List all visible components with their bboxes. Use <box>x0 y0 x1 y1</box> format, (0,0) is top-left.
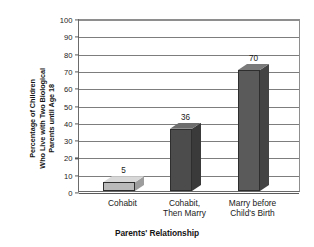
y-axis-title-line-2: Who Live with Two Biological <box>37 32 47 204</box>
y-tick-label-0: 0 <box>68 189 79 198</box>
x-category-label-1-line-0: Cohabit, <box>163 198 206 208</box>
y-tick-label-70: 70 <box>64 67 79 76</box>
y-tick-label-100: 100 <box>60 16 79 25</box>
y-tick-label-10: 10 <box>64 171 79 180</box>
bar-front-face-2 <box>238 70 260 191</box>
y-axis-title-line-3: Parents until Age 18 <box>47 32 57 204</box>
bar-0[interactable] <box>103 176 135 191</box>
data-label-1: 36 <box>181 113 190 122</box>
data-label-0: 5 <box>121 166 126 175</box>
bar-1[interactable] <box>170 123 192 191</box>
x-category-label-2-line-1: Child's Birth <box>229 208 276 218</box>
y-tick-label-80: 80 <box>64 50 79 59</box>
y-tick-label-40: 40 <box>64 119 79 128</box>
y-tick-label-20: 20 <box>64 154 79 163</box>
bar-side-face-1 <box>192 123 201 191</box>
x-category-label-0: Cohabit <box>108 198 137 208</box>
gridline-100 <box>79 20 299 21</box>
bar-chart: Percentage of Children Who Live with Two… <box>0 0 314 247</box>
bar-front-face-1 <box>170 129 192 191</box>
y-tick-label-30: 30 <box>64 137 79 146</box>
bar-2[interactable] <box>238 64 260 191</box>
plot-area: 010203040506070809010053670 <box>78 19 300 192</box>
bar-edge-2 <box>238 70 260 71</box>
y-axis-title-line-1: Percentage of Children <box>28 32 38 204</box>
x-category-label-0-line-0: Cohabit <box>108 198 137 208</box>
x-category-label-1-line-1: Then Marry <box>163 208 206 218</box>
x-category-label-2-line-0: Marry before <box>229 198 276 208</box>
data-label-2: 70 <box>249 54 258 63</box>
x-category-label-2: Marry beforeChild's Birth <box>229 198 276 219</box>
bar-front-face-0 <box>103 182 135 191</box>
y-tick-label-50: 50 <box>64 102 79 111</box>
bar-side-face-2 <box>260 64 269 191</box>
bar-edge-0 <box>103 182 135 183</box>
gridline-90 <box>79 37 299 38</box>
bar-edge-1 <box>170 129 192 130</box>
x-axis-title: Parents' Relationship <box>0 228 314 238</box>
y-tick-label-60: 60 <box>64 85 79 94</box>
gridline-0 <box>79 193 299 194</box>
x-category-label-1: Cohabit,Then Marry <box>163 198 206 219</box>
gridline-80 <box>79 55 299 56</box>
y-axis-title: Percentage of Children Who Live with Two… <box>28 32 57 204</box>
y-tick-label-90: 90 <box>64 33 79 42</box>
